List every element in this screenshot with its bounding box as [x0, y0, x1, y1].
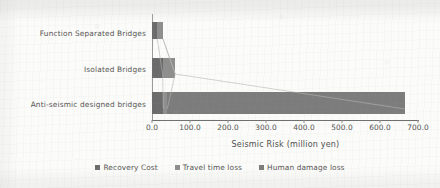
bar-segment-travel-time-loss: [157, 22, 163, 39]
legend-item-travel-time-loss: Travel time loss: [175, 163, 242, 172]
x-tick-label: 600.0: [369, 123, 391, 132]
x-tick-label: 500.0: [331, 123, 353, 132]
legend-swatch-icon: [95, 165, 100, 170]
bar-row-function-separated-bridges: [152, 16, 418, 50]
bar-stack: [152, 92, 405, 114]
chart-legend: Recovery Cost Travel time loss Human dam…: [0, 163, 440, 172]
bar-row-isolated-bridges: [152, 51, 418, 85]
bar-segment-recovery-cost: [152, 58, 163, 78]
legend-item-human-damage-loss: Human damage loss: [259, 163, 345, 172]
legend-swatch-icon: [175, 165, 180, 170]
bar-stack: [152, 58, 175, 78]
x-axis-ticks: 0.0 100.0 200.0 300.0 400.0 500.0 600.0 …: [152, 123, 419, 135]
plot-area: [152, 14, 418, 120]
x-axis-title: Seismic Risk (million yen): [152, 140, 419, 149]
x-tick-label: 400.0: [293, 123, 315, 132]
x-tick-label: 100.0: [179, 123, 201, 132]
x-tick-label: 700.0: [407, 123, 429, 132]
x-tick-label: 0.0: [146, 123, 158, 132]
bar-segment-human-damage-loss: [167, 92, 405, 114]
seismic-risk-chart: Function Separated Bridges Isolated Brid…: [0, 0, 440, 188]
bar-stack: [152, 22, 163, 39]
bar-segment-travel-time-loss: [163, 58, 176, 78]
x-tick-label: 200.0: [217, 123, 239, 132]
category-label-isolated-bridges: Isolated Bridges: [0, 65, 146, 74]
legend-label: Travel time loss: [183, 163, 242, 172]
legend-item-recovery-cost: Recovery Cost: [95, 163, 157, 172]
legend-label: Human damage loss: [267, 163, 345, 172]
category-label-function-separated-bridges: Function Separated Bridges: [0, 29, 146, 38]
bar-row-anti-seismic-designed-bridges: [152, 86, 418, 120]
bar-segment-recovery-cost: [152, 92, 163, 114]
category-label-anti-seismic-designed-bridges: Anti-seismic designed bridges: [0, 100, 146, 109]
x-tick-label: 300.0: [255, 123, 277, 132]
legend-swatch-icon: [259, 165, 264, 170]
legend-label: Recovery Cost: [103, 163, 157, 172]
